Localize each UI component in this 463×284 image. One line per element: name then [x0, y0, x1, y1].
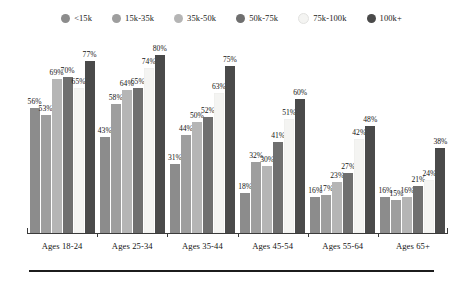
x-axis-tick	[378, 233, 379, 237]
bar-slot: 64%	[122, 37, 132, 233]
bar-group: 16%15%16%21%24%38%	[378, 37, 448, 233]
bar[interactable]	[192, 122, 202, 233]
bar-slot: 31%	[170, 37, 180, 233]
bar[interactable]	[262, 166, 272, 233]
bar-slot: 43%	[100, 37, 110, 233]
bar[interactable]	[170, 164, 180, 233]
bar[interactable]	[380, 197, 390, 233]
x-axis-label: Ages 65+	[378, 241, 448, 251]
bar-value-label: 75%	[223, 56, 237, 64]
bar[interactable]	[251, 162, 261, 233]
x-axis-label: Ages 35-44	[167, 241, 237, 251]
legend-item-label: 75k-100k	[313, 14, 346, 23]
bar-value-label: 53%	[39, 105, 53, 113]
bar[interactable]	[225, 66, 235, 233]
bar-slot: 21%	[413, 37, 423, 233]
legend-item[interactable]: 100k+	[367, 14, 402, 23]
bar[interactable]	[133, 88, 143, 233]
legend-item-label: 15k-35k	[125, 14, 154, 23]
bar[interactable]	[41, 115, 51, 233]
bar-slot: 58%	[111, 37, 121, 233]
grouped-bar-chart: <15k15k-35k35k-50k50k-75k75k-100k100k+ 5…	[0, 0, 463, 284]
bar[interactable]	[63, 77, 73, 233]
bar[interactable]	[85, 61, 95, 233]
bar-value-label: 41%	[271, 132, 285, 140]
bar-value-label: 16%	[400, 187, 414, 195]
x-axis-tick	[238, 233, 239, 237]
bar-value-label: 77%	[83, 51, 97, 59]
bar-slot: 24%	[424, 37, 434, 233]
bar-value-label: 17%	[319, 185, 333, 193]
bar[interactable]	[74, 88, 84, 233]
bar[interactable]	[413, 186, 423, 233]
bar[interactable]	[365, 126, 375, 233]
bar-slot: 18%	[240, 37, 250, 233]
bar[interactable]	[240, 193, 250, 233]
bar-group: 43%58%64%65%74%80%	[97, 37, 167, 233]
x-axis-label: Ages 25-34	[97, 241, 167, 251]
bar[interactable]	[52, 79, 62, 233]
bar[interactable]	[122, 90, 132, 233]
bar-value-label: 48%	[363, 116, 377, 124]
bar-value-label: 43%	[98, 127, 112, 135]
legend-item[interactable]: 35k-50k	[174, 14, 216, 23]
bar-group: 18%32%30%41%51%60%	[238, 37, 308, 233]
bar-value-label: 24%	[422, 170, 436, 178]
x-axis-tick	[167, 233, 168, 237]
bar-group: 16%17%23%27%42%48%	[308, 37, 378, 233]
legend-swatch-icon	[174, 14, 183, 23]
bar[interactable]	[343, 173, 353, 233]
bar[interactable]	[273, 142, 283, 233]
bar-value-label: 52%	[201, 107, 215, 115]
bar-value-label: 80%	[153, 45, 167, 53]
bar[interactable]	[284, 119, 294, 233]
legend-item[interactable]: 50k-75k	[236, 14, 278, 23]
bar[interactable]	[100, 137, 110, 233]
bar-value-label: 31%	[168, 154, 182, 162]
bar-value-label: 63%	[212, 83, 226, 91]
chart-legend: <15k15k-35k35k-50k50k-75k75k-100k100k+	[0, 13, 463, 24]
bar-slot: 50%	[192, 37, 202, 233]
bar-slot: 15%	[391, 37, 401, 233]
bar-slot: 42%	[354, 37, 364, 233]
bar-slot: 23%	[332, 37, 342, 233]
bar[interactable]	[354, 139, 364, 233]
plot-area: 56%53%69%70%65%77%43%58%64%65%74%80%31%4…	[27, 37, 448, 233]
bar[interactable]	[203, 117, 213, 233]
bar[interactable]	[111, 104, 121, 233]
bar[interactable]	[424, 180, 434, 233]
x-axis-label: Ages 18-24	[27, 241, 97, 251]
bar-slot: 17%	[321, 37, 331, 233]
bar-slot: 51%	[284, 37, 294, 233]
bar-slot: 80%	[155, 37, 165, 233]
bar[interactable]	[402, 197, 412, 233]
x-axis-cap-left	[27, 228, 28, 234]
bar-value-label: 60%	[293, 89, 307, 97]
bar-slot: 70%	[63, 37, 73, 233]
bar[interactable]	[310, 197, 320, 233]
bar-slot: 44%	[181, 37, 191, 233]
bar-value-label: 23%	[330, 172, 344, 180]
x-axis-cap-right	[447, 228, 448, 234]
bar[interactable]	[435, 148, 445, 233]
bar[interactable]	[30, 108, 40, 233]
bar-value-label: 38%	[433, 138, 447, 146]
x-axis-tick	[308, 233, 309, 237]
x-axis-tick	[97, 233, 98, 237]
bar[interactable]	[332, 182, 342, 233]
bar-value-label: 30%	[260, 156, 274, 164]
bar[interactable]	[391, 200, 401, 233]
legend-item[interactable]: 15k-35k	[112, 14, 154, 23]
bar[interactable]	[295, 99, 305, 233]
legend-item-label: <15k	[74, 14, 92, 23]
legend-item[interactable]: 75k-100k	[298, 13, 346, 24]
bar[interactable]	[155, 55, 165, 233]
bar-value-label: 44%	[179, 125, 193, 133]
bar[interactable]	[214, 93, 224, 233]
legend-item-label: 50k-75k	[249, 14, 278, 23]
bar[interactable]	[144, 68, 154, 233]
bar[interactable]	[181, 135, 191, 233]
bar-value-label: 70%	[61, 67, 75, 75]
legend-item[interactable]: <15k	[61, 14, 92, 23]
bar[interactable]	[321, 195, 331, 233]
